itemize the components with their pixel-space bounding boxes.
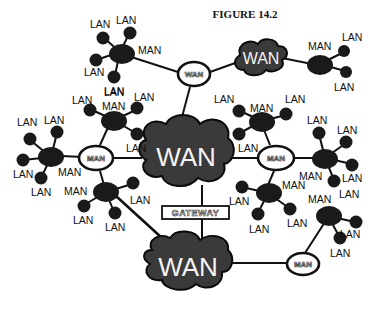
gateway-label: GATEWAY bbox=[172, 208, 220, 218]
svg-text:MAN: MAN bbox=[250, 102, 273, 114]
lan-node bbox=[51, 126, 64, 139]
svg-text:LAN: LAN bbox=[104, 86, 124, 98]
svg-text:LAN: LAN bbox=[342, 31, 362, 43]
wan-label: WAN bbox=[158, 252, 218, 282]
svg-text:LAN: LAN bbox=[229, 195, 249, 207]
lan-node bbox=[35, 172, 48, 185]
svg-text:LAN: LAN bbox=[214, 93, 234, 105]
lan-node bbox=[350, 216, 363, 229]
ring-top: WAN bbox=[178, 62, 210, 86]
lan-node bbox=[109, 207, 122, 220]
cluster-top-right: MAN LAN LAN bbox=[307, 31, 362, 93]
ring-right: MAN bbox=[258, 146, 294, 170]
lan-node bbox=[108, 71, 121, 84]
lan-node bbox=[284, 203, 297, 216]
network-diagram: FIGURE 14.2 WA bbox=[0, 0, 373, 311]
man-node bbox=[256, 183, 282, 203]
svg-text:LAN: LAN bbox=[116, 14, 136, 26]
lan-node bbox=[24, 133, 37, 146]
svg-text:LAN: LAN bbox=[307, 114, 327, 126]
svg-text:LAN: LAN bbox=[44, 114, 64, 126]
lan-node bbox=[78, 200, 91, 213]
svg-text:LAN: LAN bbox=[90, 18, 110, 30]
svg-text:MAN: MAN bbox=[267, 154, 285, 163]
svg-text:MAN: MAN bbox=[87, 154, 105, 163]
svg-text:MAN: MAN bbox=[138, 44, 161, 56]
wan-label: WAN bbox=[243, 50, 280, 67]
lan-node bbox=[97, 32, 110, 45]
wan-cloud-center: WAN bbox=[139, 115, 234, 186]
man-node bbox=[109, 44, 135, 64]
lan-node bbox=[236, 181, 249, 194]
lan-node bbox=[252, 208, 265, 221]
cluster-mid-left-upper: LAN LAN MAN LAN LAN bbox=[72, 86, 154, 154]
svg-text:LAN: LAN bbox=[105, 221, 125, 233]
wan-cloud-bottom: WAN bbox=[144, 231, 232, 289]
wan-cloud-top-right: WAN bbox=[235, 39, 287, 75]
lan-node bbox=[127, 177, 140, 190]
lan-node bbox=[124, 27, 137, 40]
man-node bbox=[307, 55, 333, 75]
lan-node bbox=[338, 45, 350, 57]
man-node bbox=[249, 112, 275, 132]
cluster-mid-left-lower: MAN LAN LAN LAN bbox=[64, 177, 150, 234]
svg-text:LAN: LAN bbox=[330, 247, 350, 259]
svg-text:LAN: LAN bbox=[249, 223, 269, 235]
cluster-bottom-right: MAN LAN LAN bbox=[308, 193, 363, 259]
wan-label: WAN bbox=[156, 142, 216, 172]
svg-text:MAN: MAN bbox=[308, 40, 331, 52]
ring-left: MAN bbox=[79, 146, 113, 170]
svg-text:MAN: MAN bbox=[282, 179, 305, 191]
lan-node bbox=[233, 128, 246, 141]
lan-node bbox=[90, 54, 103, 67]
svg-text:MAN: MAN bbox=[308, 193, 331, 205]
man-node bbox=[101, 111, 127, 131]
svg-text:LAN: LAN bbox=[339, 188, 359, 200]
svg-text:MAN: MAN bbox=[294, 260, 312, 269]
svg-text:MAN: MAN bbox=[102, 100, 125, 112]
svg-text:LAN: LAN bbox=[31, 186, 51, 198]
man-node bbox=[316, 206, 342, 226]
svg-text:LAN: LAN bbox=[340, 228, 360, 240]
lan-node bbox=[17, 154, 30, 167]
lan-node bbox=[340, 136, 353, 149]
svg-text:LAN: LAN bbox=[334, 81, 354, 93]
svg-text:LAN: LAN bbox=[238, 142, 258, 154]
svg-text:LAN: LAN bbox=[285, 93, 305, 105]
man-node bbox=[38, 147, 64, 167]
svg-text:LAN: LAN bbox=[342, 172, 362, 184]
svg-text:MAN: MAN bbox=[64, 185, 87, 197]
svg-text:LAN: LAN bbox=[84, 66, 104, 78]
cluster-top-left: LAN LAN MAN LAN LAN bbox=[84, 14, 161, 97]
svg-text:LAN: LAN bbox=[134, 91, 154, 103]
svg-text:MAN: MAN bbox=[58, 166, 81, 178]
svg-text:LAN: LAN bbox=[73, 214, 93, 226]
lan-node bbox=[340, 66, 352, 78]
lan-node bbox=[131, 128, 144, 141]
svg-text:LAN: LAN bbox=[13, 168, 33, 180]
lan-node bbox=[280, 108, 293, 121]
lan-node bbox=[328, 175, 341, 188]
lan-node bbox=[131, 102, 144, 115]
svg-text:LAN: LAN bbox=[337, 124, 357, 136]
lan-node bbox=[346, 159, 359, 172]
svg-text:LAN: LAN bbox=[72, 94, 92, 106]
svg-text:LAN: LAN bbox=[130, 194, 150, 206]
lan-node bbox=[233, 105, 246, 118]
svg-text:LAN: LAN bbox=[126, 142, 146, 154]
gateway-box: GATEWAY bbox=[162, 206, 229, 219]
svg-text:LAN: LAN bbox=[17, 116, 37, 128]
lan-node bbox=[313, 127, 326, 140]
figure-title: FIGURE 14.2 bbox=[213, 8, 278, 20]
cluster-mid-right-lower: MAN LAN LAN LAN bbox=[229, 179, 307, 235]
man-node bbox=[93, 182, 119, 202]
ring-bottom-right: MAN bbox=[287, 253, 319, 275]
svg-text:LAN: LAN bbox=[287, 217, 307, 229]
man-node bbox=[312, 149, 338, 169]
svg-text:WAN: WAN bbox=[185, 70, 204, 79]
